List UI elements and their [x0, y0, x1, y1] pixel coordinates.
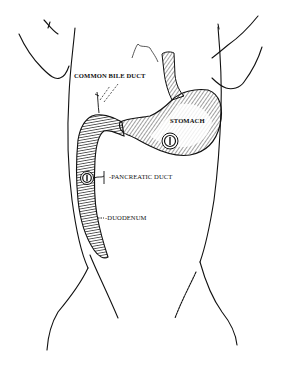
torso-outline — [19, 16, 262, 350]
duodenum-tube-section — [81, 172, 94, 185]
esophagus — [162, 52, 184, 100]
label-common-bile-duct: COMMON BILE DUCT — [74, 73, 146, 80]
common-bile-duct-sketch — [95, 84, 118, 113]
duodenum — [77, 115, 125, 258]
stomach-tube-section — [162, 133, 178, 149]
diaphragm-sketch — [132, 44, 158, 62]
anatomy-diagram — [0, 0, 282, 368]
label-stomach: STOMACH — [170, 118, 205, 125]
label-pancreatic-duct: -PANCREATIC DUCT — [109, 174, 172, 181]
label-duodenum: -DUODENUM — [105, 215, 147, 222]
